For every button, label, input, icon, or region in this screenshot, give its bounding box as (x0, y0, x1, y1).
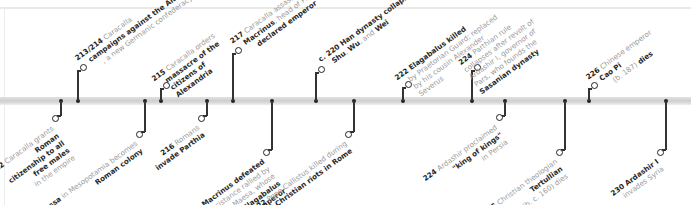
event-label: 216 Romans invade Parthia (148, 123, 206, 172)
connector-line (315, 72, 317, 101)
connector-line (665, 101, 667, 150)
event-marker-icon (556, 149, 563, 156)
event-marker-icon (496, 114, 503, 121)
event-label: 230 Ardashir I invades Syria (609, 157, 666, 205)
event-label: 226 Chinese emperor Cao Pi (b. 187) dies (584, 28, 664, 96)
connector-line (353, 101, 355, 132)
connector-line (144, 101, 146, 132)
connector-line (271, 101, 273, 150)
connector-line (588, 88, 590, 101)
event-marker-icon (657, 149, 664, 156)
event-label: 225 Christian theologian Tertullian (b. … (481, 157, 569, 205)
connector-line (77, 70, 79, 101)
connector-line (504, 101, 506, 116)
top-divider (0, 7, 691, 9)
connector-line (564, 101, 566, 150)
connector-line (60, 101, 62, 116)
connector-line (232, 53, 234, 101)
event-marker-icon (52, 115, 59, 122)
event-marker-icon (198, 115, 205, 122)
event-marker-icon (263, 149, 270, 156)
event-label: 215 Caracalla orders massacre of the cit… (150, 23, 244, 105)
connector-line (206, 101, 208, 116)
event-label: 224 Ardashir proclaimed "king of kings" … (421, 123, 509, 198)
event-marker-icon (136, 131, 143, 138)
event-marker-icon (345, 131, 352, 138)
